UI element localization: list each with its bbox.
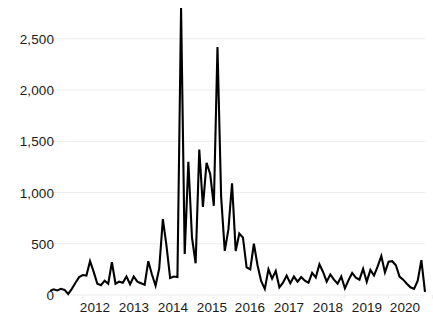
x-tick-label-2015: 2015 [192,301,232,315]
y-tick-label-500: 500 [31,238,54,252]
x-tick-label-2017: 2017 [269,301,309,315]
x-tick-label-2013: 2013 [114,301,154,315]
x-tick-label-2018: 2018 [308,301,348,315]
y-tick-label-2000: 2,000 [20,84,54,98]
x-tick-label-2012: 2012 [75,301,115,315]
x-tick-label-2016: 2016 [230,301,270,315]
series-line-monthly-count [50,8,425,294]
gridlines-group [50,39,425,295]
y-tick-label-1500: 1,500 [20,135,54,149]
x-tick-label-2014: 2014 [153,301,193,315]
y-tick-label-0: 0 [46,289,54,303]
x-tick-label-2020: 2020 [385,301,425,315]
line-chart: 0 500 1,000 1,500 2,000 2,500 2012 2013 … [0,0,433,322]
x-tick-label-2019: 2019 [347,301,387,315]
chart-plot-area [0,0,433,322]
y-tick-label-1000: 1,000 [20,187,54,201]
y-tick-label-2500: 2,500 [20,33,54,47]
